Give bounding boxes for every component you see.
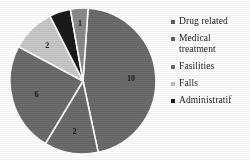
legend-item[interactable]: Drug related: [171, 16, 248, 27]
legend-item-list: Drug relatedMedical treatmentFasilitiesF…: [171, 16, 248, 106]
legend-color-swatch-icon: [171, 82, 175, 86]
legend-item-label: Fasilities: [179, 61, 214, 72]
legend-item-label: Drug related: [179, 16, 228, 27]
legend-item[interactable]: Administratif: [171, 95, 248, 106]
legend-item-label: Administratif: [179, 95, 232, 106]
pie-slice-value-label: 2: [73, 127, 77, 136]
pie-slice-value-label: 10: [127, 74, 135, 83]
legend-item[interactable]: Fasilities: [171, 61, 248, 72]
legend-color-swatch-icon: [171, 65, 175, 69]
pie-slice-value-label: 1: [62, 22, 66, 31]
legend-item[interactable]: Medical treatment: [171, 33, 248, 54]
legend-color-swatch-icon: [171, 99, 175, 103]
pie-slice-value-label: 1: [78, 19, 82, 28]
legend-item-label: Falls: [179, 78, 198, 89]
legend-color-swatch-icon: [171, 20, 175, 24]
pie-chart-plot-area: 1026211: [0, 0, 165, 160]
pie-chart-figure: 1026211 Drug relatedMedical treatmentFas…: [0, 0, 250, 160]
chart-legend: Drug relatedMedical treatmentFasilitiesF…: [165, 0, 250, 160]
legend-color-swatch-icon: [171, 37, 175, 41]
pie-chart-svg: 1026211: [8, 6, 158, 156]
legend-item-label: Medical treatment: [179, 33, 216, 54]
pie-slice-value-label: 6: [35, 90, 39, 99]
pie-slice-value-label: 2: [45, 41, 49, 50]
legend-item[interactable]: Falls: [171, 78, 248, 89]
